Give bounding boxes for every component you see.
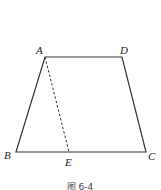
vertex-label-c: C [148, 150, 156, 162]
figure-caption: 图 6-4 [67, 182, 94, 190]
vertex-label-b: B [4, 149, 11, 161]
trapezoid-diagram: A D B C E 图 6-4 [0, 0, 161, 190]
vertex-label-a: A [35, 44, 43, 56]
vertex-label-d: D [119, 44, 128, 56]
segment-ae-dashed [45, 57, 69, 152]
trapezoid-abcd [16, 57, 146, 152]
point-label-e: E [64, 156, 72, 168]
